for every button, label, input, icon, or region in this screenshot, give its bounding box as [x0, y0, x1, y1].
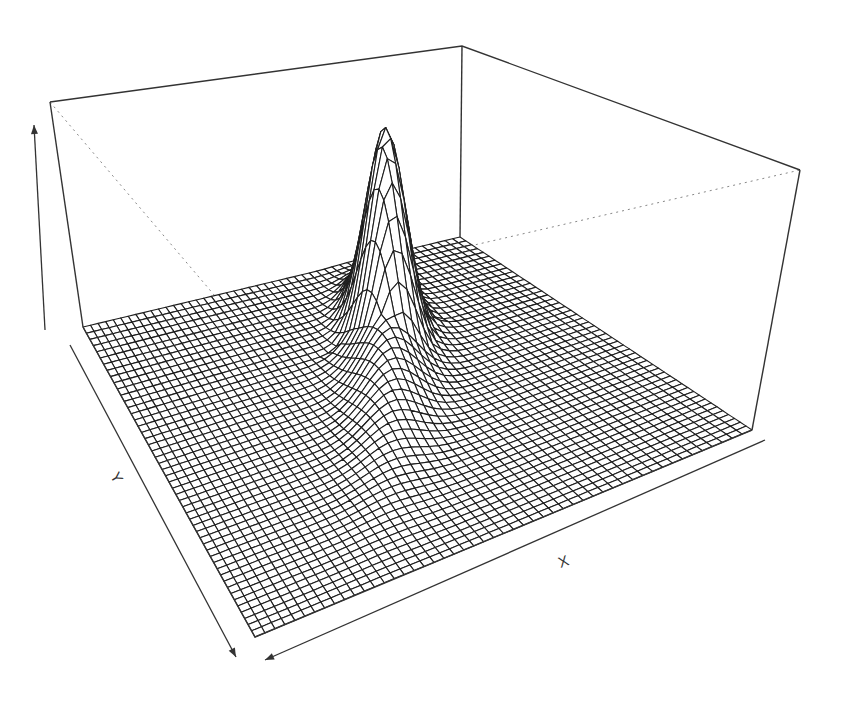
surface-plot: X Y	[0, 0, 846, 702]
x-axis-label: X	[556, 551, 571, 570]
z-axis-arrow	[31, 125, 45, 330]
y-axis-label: Y	[107, 469, 127, 486]
